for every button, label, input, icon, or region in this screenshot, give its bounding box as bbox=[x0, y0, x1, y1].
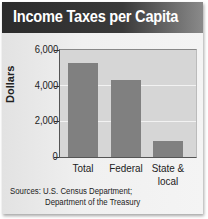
chart-title: Income Taxes per Capita bbox=[13, 7, 178, 27]
y-tick-4000: 4,000 bbox=[34, 79, 58, 91]
bar-total bbox=[68, 63, 98, 157]
x-label-state-line1: State & bbox=[150, 162, 186, 174]
source-line-1: Sources: U.S. Census Department; bbox=[10, 186, 132, 196]
x-label-total: Total bbox=[65, 162, 101, 174]
plot-area bbox=[59, 49, 197, 158]
source-line-2: Department of the Treasury bbox=[45, 197, 140, 207]
y-tick-6000: 6,000 bbox=[34, 43, 58, 55]
y-tick-2000: 2,000 bbox=[34, 114, 58, 126]
chart-header: Income Taxes per Capita bbox=[2, 2, 203, 33]
x-label-state-line2: local bbox=[150, 175, 186, 187]
bar-federal bbox=[111, 80, 141, 157]
x-label-federal: Federal bbox=[108, 162, 144, 174]
y-tick-0: 0 bbox=[53, 150, 58, 162]
bar-state-local bbox=[153, 141, 183, 157]
y-axis-label: Dollars bbox=[4, 66, 16, 103]
